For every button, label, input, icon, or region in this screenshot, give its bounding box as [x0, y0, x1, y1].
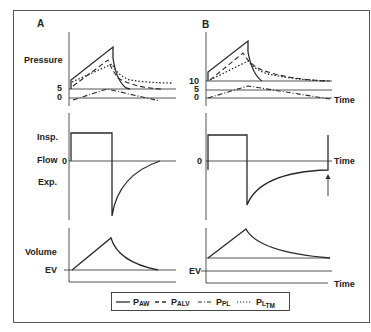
- panel-b: [206, 32, 332, 283]
- tick-b-flow-0: 0: [197, 156, 202, 166]
- tick-b-0: 0: [194, 92, 199, 102]
- panel-a: [64, 32, 176, 282]
- time-label-volume: Time: [334, 279, 355, 289]
- legend: PAW PALV PPL PLTM: [112, 293, 290, 311]
- label-volume: Volume: [25, 247, 57, 257]
- label-ev-a: EV: [45, 265, 57, 275]
- label-insp: Insp.: [37, 132, 58, 142]
- tick-a-0: 0: [57, 92, 62, 102]
- label-ev-b: EV: [189, 266, 201, 276]
- tick-a-flow-0: 0: [62, 156, 67, 166]
- label-flow: Flow: [37, 155, 58, 165]
- panel-label-a: A: [37, 18, 44, 29]
- label-exp: Exp.: [38, 177, 57, 187]
- time-label-pressure: Time: [334, 95, 355, 105]
- time-label-flow: Time: [334, 156, 355, 166]
- panel-label-b: B: [202, 19, 209, 30]
- label-pressure: Pressure: [24, 55, 63, 65]
- ventilation-waveform-figure: A B: [0, 0, 371, 332]
